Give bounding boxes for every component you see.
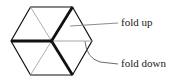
diagram-canvas (0, 0, 185, 83)
hexagon-fold-diagram: fold up fold down (0, 0, 185, 83)
label-fold-up: fold up (121, 17, 152, 28)
label-fold-down: fold down (121, 58, 166, 69)
